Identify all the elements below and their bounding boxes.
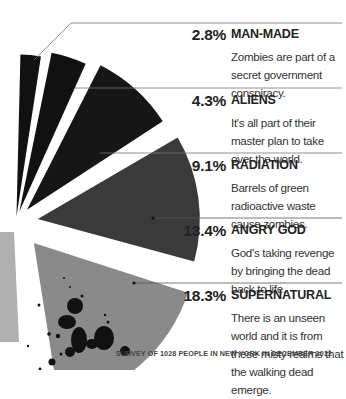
category-label: RADIATION <box>231 158 298 172</box>
category-label: ANGRY GOD <box>231 223 306 237</box>
pie-slice-other-cropped <box>0 232 19 342</box>
category-label: SUPERNATURAL <box>231 288 331 302</box>
percentage: 4.3% <box>166 92 226 110</box>
percentage: 2.8% <box>166 26 226 44</box>
survey-footnote: SURVEY OF 1028 PEOPLE IN NEW YORK IN DEC… <box>116 349 332 358</box>
category-label: ALIENS <box>231 93 276 107</box>
leader-dot-supernatural <box>132 281 135 284</box>
percentage: 13.4% <box>166 222 226 240</box>
percentage: 18.3% <box>166 287 226 305</box>
percentage: 9.1% <box>166 157 226 175</box>
category-label: MAN-MADE <box>231 27 299 41</box>
leader-dot-angry-god <box>151 216 154 219</box>
